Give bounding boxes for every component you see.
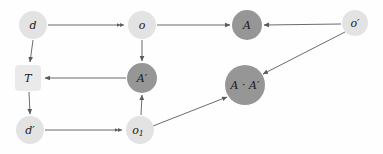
node-A-prime-shape[interactable] (127, 63, 157, 93)
node-T-shape[interactable] (15, 65, 41, 91)
node-d[interactable]: d (19, 11, 47, 39)
node-A-dot-A-prime-shape[interactable] (225, 65, 265, 105)
node-A[interactable]: A (232, 10, 262, 40)
edge-oprime-to-AdotAprime (263, 32, 345, 74)
node-o-prime[interactable]: o′ (342, 10, 368, 36)
edge-o1-to-AdotAprime (153, 97, 227, 126)
node-A-prime[interactable]: A′ (127, 63, 157, 93)
node-o1-shape[interactable] (126, 116, 154, 144)
node-d-prime-shape[interactable] (16, 116, 44, 144)
node-A-dot-A-prime[interactable]: A · A′ (225, 65, 265, 105)
node-d-prime[interactable]: d′ (16, 116, 44, 144)
node-d-shape[interactable] (19, 11, 47, 39)
node-o[interactable]: o (128, 11, 156, 39)
nodes-layer: d o A o′ T A′ (15, 10, 368, 144)
edge-o1-to-Aprime (141, 95, 142, 115)
node-T[interactable]: T (15, 65, 41, 91)
commutative-diagram-canvas: d o A o′ T A′ (0, 0, 383, 154)
edge-oprime-to-A (264, 24, 341, 25)
diagram-svg: d o A o′ T A′ (0, 0, 383, 154)
node-o-prime-shape[interactable] (342, 10, 368, 36)
edge-d-to-T (30, 40, 33, 62)
node-o-shape[interactable] (128, 11, 156, 39)
node-A-shape[interactable] (232, 10, 262, 40)
edges-layer (29, 24, 345, 130)
edge-T-to-dprime (29, 92, 30, 114)
node-o1[interactable]: o1 (126, 116, 154, 144)
